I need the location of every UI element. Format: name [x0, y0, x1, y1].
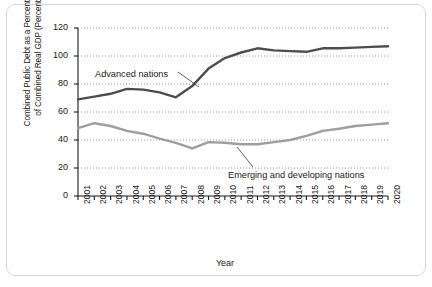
- line-chart: Combined Public Debt as a Percentage of …: [0, 0, 432, 287]
- series-line-1: [78, 46, 388, 99]
- annotation-leader-line-1: [178, 72, 199, 87]
- series-line-2: [78, 123, 388, 148]
- plot-area: [0, 0, 432, 287]
- annotation-leader-line-2: [237, 147, 253, 167]
